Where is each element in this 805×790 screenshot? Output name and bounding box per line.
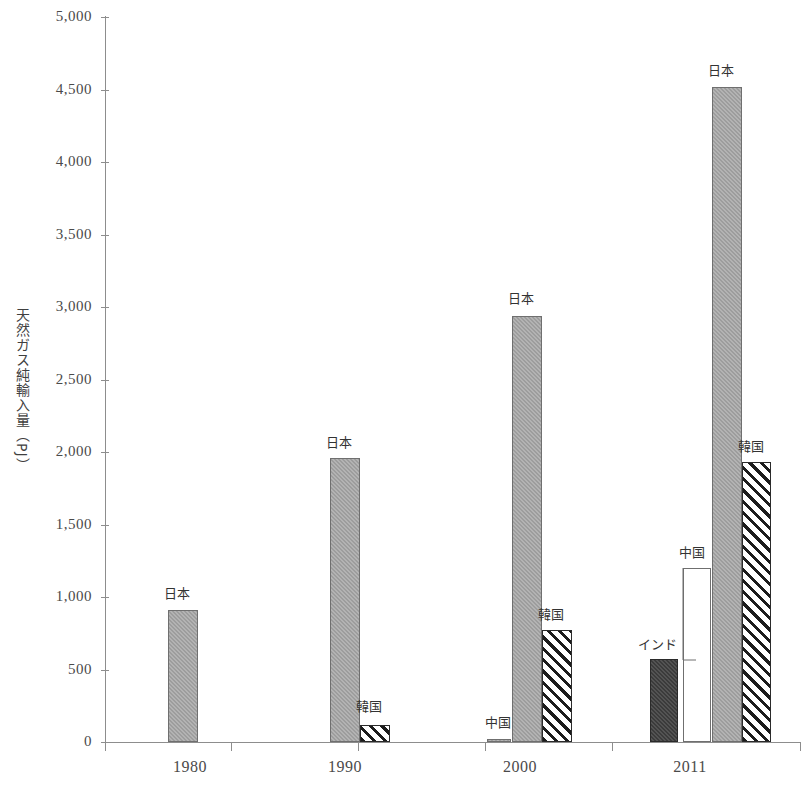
bar-1980-日本 [168,610,198,742]
y-tick [101,380,109,381]
y-tick-label: 2,000 [20,443,92,460]
y-tick-label: 1,000 [20,588,92,605]
x-tick [485,742,486,751]
bar-2011-日本 [712,87,742,742]
bar-2000-日本 [512,316,542,742]
y-tick [101,307,109,308]
bar-label-2011-韓国: 韓国 [734,440,768,454]
y-tick [101,17,109,18]
y-tick-label: 4,000 [20,153,92,170]
bar-2011-インド [650,659,678,742]
y-tick-label: 500 [20,661,92,678]
y-tick-label: 1,500 [20,516,92,533]
y-tick-label: 3,500 [20,226,92,243]
bar-label-1980-日本: 日本 [160,587,194,601]
x-axis-label-1990: 1990 [305,758,385,776]
bar-label-2011-日本: 日本 [704,64,738,78]
bar-label-2011-中国: 中国 [675,546,709,560]
x-axis-line [105,742,800,743]
bar-label-2011-インド: インド [634,638,680,652]
bar-2000-中国 [487,739,511,742]
y-tick [101,597,109,598]
x-tick [105,742,106,751]
y-tick [101,90,109,91]
x-axis-label-1980: 1980 [150,758,230,776]
x-tick [612,742,613,751]
bar-1990-韓国 [360,725,390,742]
bar-2011-韓国 [742,462,771,742]
bar-2011-中国 [683,568,711,742]
x-axis-label-2011: 2011 [650,758,730,776]
bar-label-2000-韓国: 韓国 [534,608,568,622]
x-tick [358,742,359,751]
y-tick [101,670,109,671]
y-tick-label: 5,000 [20,8,92,25]
x-tick [800,742,801,751]
bar-2000-韓国 [542,630,572,742]
y-tick-label: 4,500 [20,81,92,98]
bar-label-2000-日本: 日本 [504,292,538,306]
x-tick [231,742,232,751]
bar-chart: 天然ガス純輸入量（PJ） 5,0004,5004,0003,5003,0002,… [0,0,805,790]
bar-label-1990-韓国: 韓国 [352,700,386,714]
y-tick-label: 0 [20,733,92,750]
y-tick [101,162,109,163]
y-tick [101,525,109,526]
y-tick-label: 3,000 [20,298,92,315]
y-tick [101,452,109,453]
bar-label-1990-日本: 日本 [322,436,356,450]
y-tick [101,235,109,236]
y-tick-label: 2,500 [20,371,92,388]
bar-label-2000-中国: 中国 [481,716,515,730]
x-axis-label-2000: 2000 [480,758,560,776]
